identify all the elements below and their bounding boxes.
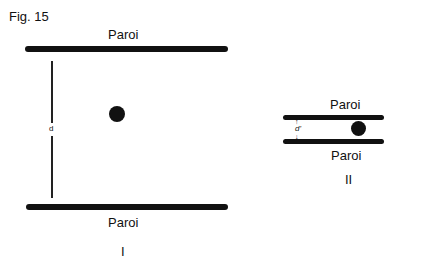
distance-line-upper (51, 61, 53, 123)
distance-label: d' (295, 124, 301, 133)
distance-line-lower (51, 136, 53, 198)
particle (109, 106, 125, 122)
distance-label: d (49, 124, 53, 133)
panel-caption: II (345, 172, 352, 187)
top-wall (25, 46, 228, 52)
bottom-wall (26, 204, 228, 210)
top-wall-label: Paroi (108, 27, 138, 42)
bottom-wall-label: Paroi (108, 215, 138, 230)
bottom-wall-label: Paroi (331, 148, 361, 163)
particle (351, 121, 366, 136)
panel-caption: I (121, 244, 125, 259)
bottom-wall (283, 139, 384, 144)
top-wall-label: Paroi (330, 97, 360, 112)
figure-title: Fig. 15 (9, 9, 49, 24)
